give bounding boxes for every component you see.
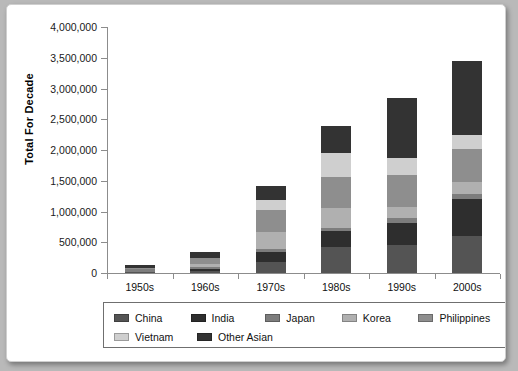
- y-axis-tick: [101, 89, 107, 90]
- y-axis-tick-label: 4,000,000: [50, 21, 97, 33]
- legend-item-china[interactable]: China: [114, 312, 186, 324]
- legend-item-label: Philippines: [439, 312, 490, 324]
- bar-segment-china[interactable]: [190, 271, 220, 273]
- bar-segment-other-asian[interactable]: [387, 98, 417, 158]
- y-axis-tick: [101, 212, 107, 213]
- legend-item-philippines[interactable]: Philippines: [418, 312, 501, 324]
- x-axis-tick-label: 1980s: [322, 281, 351, 293]
- legend-swatch-icon: [418, 314, 433, 322]
- y-axis-tick-label: 3,500,000: [50, 52, 97, 64]
- x-axis-tick: [107, 274, 108, 279]
- y-axis-tick-label: 1,000,000: [50, 206, 97, 218]
- legend-row: VietnamOther Asian: [114, 327, 506, 346]
- y-axis-labels: 4,000,0003,500,0003,000,0002,500,0002,00…: [7, 5, 97, 305]
- bar-stack[interactable]: [125, 27, 155, 273]
- legend-item-label: Korea: [363, 312, 391, 324]
- bar-segment-india[interactable]: [452, 199, 482, 236]
- x-axis-tick-label: 1990s: [387, 281, 416, 293]
- bar-segment-vietnam[interactable]: [387, 158, 417, 175]
- chart-legend: ChinaIndiaJapanKoreaPhilippines VietnamO…: [103, 302, 506, 348]
- bar-segment-philippines[interactable]: [256, 210, 286, 232]
- bar-segment-philippines[interactable]: [452, 149, 482, 182]
- bar-segment-china[interactable]: [125, 272, 155, 273]
- y-axis-tick: [101, 119, 107, 120]
- bar-segment-china[interactable]: [387, 245, 417, 273]
- legend-item-label: Vietnam: [135, 331, 173, 343]
- bar-segment-other-asian[interactable]: [321, 126, 351, 152]
- bar-stack[interactable]: [452, 27, 482, 273]
- bar-segment-korea[interactable]: [321, 208, 351, 228]
- legend-swatch-icon: [197, 333, 212, 341]
- bar-stack[interactable]: [321, 27, 351, 273]
- y-axis-tick: [101, 181, 107, 182]
- legend-item-label: India: [212, 312, 235, 324]
- legend-item-label: Other Asian: [218, 331, 273, 343]
- bar-segment-other-asian[interactable]: [452, 61, 482, 135]
- bar-segment-china[interactable]: [452, 236, 482, 273]
- legend-item-label: Japan: [286, 312, 315, 324]
- bar-stack[interactable]: [256, 27, 286, 273]
- y-axis-tick-label: 2,500,000: [50, 113, 97, 125]
- legend-item-korea[interactable]: Korea: [342, 312, 414, 324]
- x-axis-tick-label: 1960s: [191, 281, 220, 293]
- x-axis-tick-label: 1950s: [125, 281, 154, 293]
- x-axis-tick: [369, 274, 370, 279]
- legend-item-label: China: [135, 312, 162, 324]
- legend-item-other-asian[interactable]: Other Asian: [197, 331, 273, 343]
- bar-segment-other-asian[interactable]: [256, 186, 286, 200]
- legend-swatch-icon: [114, 314, 129, 322]
- legend-swatch-icon: [114, 333, 129, 341]
- x-axis-tick: [500, 274, 501, 279]
- legend-item-india[interactable]: India: [191, 312, 261, 324]
- chart-card: Total For Decade 4,000,0003,500,0003,000…: [6, 4, 506, 362]
- bar-segment-philippines[interactable]: [321, 177, 351, 208]
- y-axis-tick-label: 2,000,000: [50, 144, 97, 156]
- legend-swatch-icon: [265, 314, 280, 322]
- bar-segment-philippines[interactable]: [387, 175, 417, 207]
- y-axis-tick: [101, 150, 107, 151]
- y-axis-tick-label: 1,500,000: [50, 175, 97, 187]
- bar-segment-india[interactable]: [256, 252, 286, 262]
- plot-area: [107, 27, 499, 273]
- bar-segment-vietnam[interactable]: [321, 153, 351, 178]
- x-axis-tick: [304, 274, 305, 279]
- y-axis-tick: [101, 27, 107, 28]
- bar-segment-china[interactable]: [321, 247, 351, 273]
- legend-swatch-icon: [342, 314, 357, 322]
- x-axis-tick: [173, 274, 174, 279]
- bar-stack[interactable]: [387, 27, 417, 273]
- x-axis-tick-label: 1970s: [256, 281, 285, 293]
- legend-row: ChinaIndiaJapanKoreaPhilippines: [114, 308, 506, 327]
- x-axis-tick-label: 2000s: [453, 281, 482, 293]
- x-axis-tick: [435, 274, 436, 279]
- bar-segment-vietnam[interactable]: [452, 135, 482, 149]
- y-axis-tick-label: 3,000,000: [50, 83, 97, 95]
- y-axis-tick-label: 500,000: [59, 236, 97, 248]
- legend-swatch-icon: [191, 314, 206, 322]
- bar-segment-korea[interactable]: [452, 182, 482, 194]
- bar-segment-korea[interactable]: [256, 232, 286, 249]
- y-axis-tick: [101, 58, 107, 59]
- bar-segment-korea[interactable]: [387, 207, 417, 218]
- y-axis-tick-label: 0: [91, 267, 97, 279]
- bar-segment-vietnam[interactable]: [256, 200, 286, 210]
- legend-item-japan[interactable]: Japan: [265, 312, 337, 324]
- legend-item-vietnam[interactable]: Vietnam: [114, 331, 192, 343]
- bar-stack[interactable]: [190, 27, 220, 273]
- bar-segment-india[interactable]: [387, 223, 417, 245]
- y-axis-tick: [101, 242, 107, 243]
- bar-segment-china[interactable]: [256, 262, 286, 273]
- bar-segment-india[interactable]: [321, 231, 351, 247]
- x-axis-tick: [238, 274, 239, 279]
